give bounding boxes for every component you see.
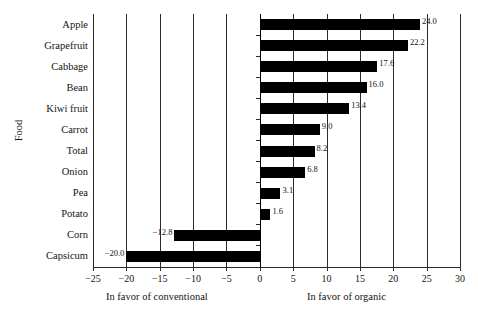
x-tick xyxy=(93,267,94,271)
bar-row: 9.0 xyxy=(93,119,460,140)
chart-figure: Food AppleGrapefruitCabbageBeanKiwi frui… xyxy=(0,0,478,315)
bar[interactable] xyxy=(260,82,367,93)
x-tick xyxy=(393,267,394,271)
bar-value-label: 9.0 xyxy=(322,121,333,132)
bar[interactable] xyxy=(260,146,315,157)
bar-row: 16.0 xyxy=(93,77,460,98)
x-tick xyxy=(226,267,227,271)
category-label-apple: Apple xyxy=(2,19,88,31)
bar-value-label: −12.8 xyxy=(142,227,172,238)
bar-row: −12.8 xyxy=(93,225,460,246)
category-label-kiwi-fruit: Kiwi fruit xyxy=(2,103,88,115)
bar-row: 17.6 xyxy=(93,56,460,77)
category-label-pea: Pea xyxy=(2,187,88,199)
bar-row: 13.4 xyxy=(93,98,460,119)
x-axis-line xyxy=(93,267,461,268)
bar[interactable] xyxy=(260,61,377,72)
category-label-cabbage: Cabbage xyxy=(2,61,88,73)
plot-area: 24.022.217.616.013.49.08.26.83.11.6−12.8… xyxy=(93,14,460,267)
bar[interactable] xyxy=(260,124,320,135)
bar[interactable] xyxy=(260,188,281,199)
bar-row: 6.8 xyxy=(93,162,460,183)
bar-value-label: 24.0 xyxy=(422,16,437,27)
bar-value-label: 3.1 xyxy=(283,185,294,196)
bar-value-label: 17.6 xyxy=(379,58,394,69)
bar-value-label: 6.8 xyxy=(307,164,318,175)
bar-value-label: 8.2 xyxy=(317,143,328,154)
bar[interactable] xyxy=(260,103,349,114)
category-label-bean: Bean xyxy=(2,82,88,94)
x-tick xyxy=(260,267,261,271)
gridline-30 xyxy=(460,14,461,267)
category-label-onion: Onion xyxy=(2,166,88,178)
bar[interactable] xyxy=(260,40,408,51)
y-axis-tick-labels: AppleGrapefruitCabbageBeanKiwi fruitCarr… xyxy=(0,14,88,267)
x-axis-title-right: In favor of organic xyxy=(307,290,386,303)
bar-value-label: 16.0 xyxy=(369,79,384,90)
category-label-carrot: Carrot xyxy=(2,124,88,136)
bar[interactable] xyxy=(174,230,259,241)
x-tick xyxy=(160,267,161,271)
category-label-total: Total xyxy=(2,145,88,157)
bar-value-label: 13.4 xyxy=(351,100,366,111)
x-tick xyxy=(360,267,361,271)
bar[interactable] xyxy=(260,19,420,30)
bar-row: −20.0 xyxy=(93,246,460,267)
category-label-corn: Corn xyxy=(2,229,88,241)
bar-value-label: −20.0 xyxy=(94,248,124,259)
category-label-potato: Potato xyxy=(2,208,88,220)
x-tick xyxy=(193,267,194,271)
category-label-grapefruit: Grapefruit xyxy=(2,40,88,52)
bar-row: 1.6 xyxy=(93,204,460,225)
bar-row: 3.1 xyxy=(93,183,460,204)
x-tick xyxy=(327,267,328,271)
bar-row: 8.2 xyxy=(93,141,460,162)
category-label-capsicum: Capsicum xyxy=(2,250,88,262)
x-tick xyxy=(293,267,294,271)
bar-row: 24.0 xyxy=(93,14,460,35)
bar-row: 22.2 xyxy=(93,35,460,56)
bar[interactable] xyxy=(260,167,305,178)
bar-value-label: 22.2 xyxy=(410,37,425,48)
bar[interactable] xyxy=(126,251,259,262)
x-axis-title-left: In favor of conventional xyxy=(106,290,208,303)
x-tick-label: 30 xyxy=(440,273,478,285)
x-tick xyxy=(126,267,127,271)
bar-value-label: 1.6 xyxy=(272,206,283,217)
x-tick xyxy=(427,267,428,271)
x-tick xyxy=(460,267,461,271)
bar[interactable] xyxy=(260,209,271,220)
